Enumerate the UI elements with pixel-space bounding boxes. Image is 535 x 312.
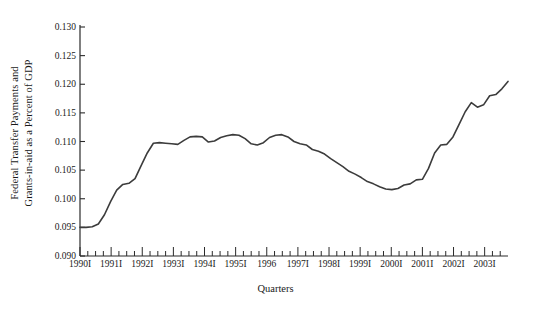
data-series-line bbox=[80, 81, 508, 227]
plot-area bbox=[0, 0, 535, 312]
x-tick-marks bbox=[80, 247, 500, 256]
axis-lines bbox=[80, 25, 508, 256]
chart-figure: Federal Transfer Payments and Grants-in-… bbox=[0, 0, 535, 312]
y-tick-marks bbox=[80, 27, 85, 256]
